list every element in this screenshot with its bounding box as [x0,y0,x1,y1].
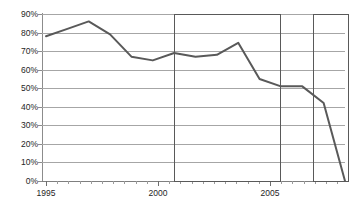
series-line-1 [46,21,345,181]
series-overlay [0,0,363,209]
line-chart: 90% 80% 70% 60% 50% 40% 30% 20% 10% 0% [0,0,363,209]
